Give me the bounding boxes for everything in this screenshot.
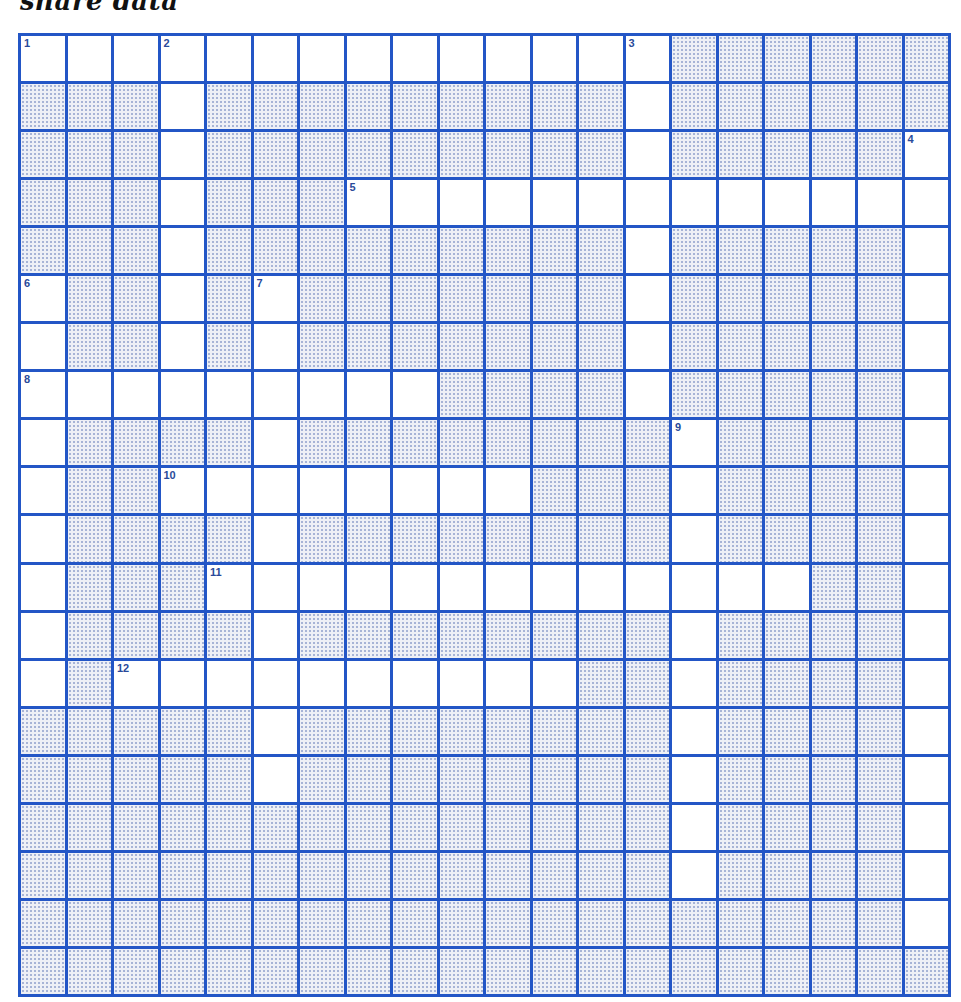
grid-cell-open[interactable] bbox=[161, 661, 205, 706]
grid-cell-open[interactable] bbox=[765, 180, 809, 225]
grid-cell-open[interactable] bbox=[579, 180, 623, 225]
grid-cell-open[interactable] bbox=[579, 565, 623, 610]
grid-cell-open[interactable] bbox=[254, 613, 298, 658]
grid-cell-open[interactable] bbox=[393, 468, 437, 513]
grid-cell-open[interactable] bbox=[626, 228, 670, 273]
grid-cell-open[interactable]: 4 bbox=[905, 132, 949, 177]
grid-cell-open[interactable] bbox=[440, 565, 484, 610]
grid-cell-open[interactable]: 2 bbox=[161, 36, 205, 81]
grid-cell-open[interactable]: 7 bbox=[254, 276, 298, 321]
grid-cell-open[interactable] bbox=[254, 565, 298, 610]
grid-cell-open[interactable] bbox=[440, 36, 484, 81]
grid-cell-open[interactable] bbox=[626, 180, 670, 225]
grid-cell-open[interactable] bbox=[21, 420, 65, 465]
grid-cell-open[interactable] bbox=[440, 180, 484, 225]
grid-cell-open[interactable] bbox=[626, 84, 670, 129]
grid-cell-open[interactable] bbox=[114, 36, 158, 81]
grid-cell-open[interactable] bbox=[300, 661, 344, 706]
grid-cell-open[interactable] bbox=[905, 372, 949, 417]
grid-cell-open[interactable] bbox=[719, 180, 763, 225]
grid-cell-open[interactable] bbox=[300, 468, 344, 513]
grid-cell-open[interactable] bbox=[207, 372, 251, 417]
grid-cell-open[interactable]: 6 bbox=[21, 276, 65, 321]
grid-cell-open[interactable] bbox=[905, 180, 949, 225]
grid-cell-open[interactable]: 10 bbox=[161, 468, 205, 513]
grid-cell-open[interactable] bbox=[161, 132, 205, 177]
grid-cell-open[interactable] bbox=[905, 565, 949, 610]
grid-cell-open[interactable] bbox=[254, 372, 298, 417]
grid-cell-open[interactable] bbox=[533, 180, 577, 225]
grid-cell-open[interactable] bbox=[393, 36, 437, 81]
grid-cell-open[interactable] bbox=[765, 565, 809, 610]
grid-cell-open[interactable] bbox=[626, 372, 670, 417]
grid-cell-open[interactable]: 9 bbox=[672, 420, 716, 465]
grid-cell-open[interactable] bbox=[905, 468, 949, 513]
grid-cell-open[interactable] bbox=[626, 276, 670, 321]
grid-cell-open[interactable] bbox=[21, 613, 65, 658]
grid-cell-open[interactable] bbox=[347, 36, 391, 81]
grid-cell-open[interactable] bbox=[533, 36, 577, 81]
grid-cell-open[interactable] bbox=[905, 613, 949, 658]
grid-cell-open[interactable] bbox=[672, 853, 716, 898]
grid-cell-open[interactable] bbox=[347, 565, 391, 610]
grid-cell-open[interactable] bbox=[254, 36, 298, 81]
grid-cell-open[interactable] bbox=[905, 516, 949, 561]
grid-cell-open[interactable] bbox=[905, 228, 949, 273]
grid-cell-open[interactable] bbox=[161, 324, 205, 369]
grid-cell-open[interactable] bbox=[21, 468, 65, 513]
grid-cell-open[interactable] bbox=[347, 372, 391, 417]
grid-cell-open[interactable] bbox=[672, 180, 716, 225]
grid-cell-open[interactable] bbox=[207, 36, 251, 81]
grid-cell-open[interactable] bbox=[254, 757, 298, 802]
grid-cell-open[interactable] bbox=[21, 516, 65, 561]
grid-cell-open[interactable] bbox=[672, 805, 716, 850]
grid-cell-open[interactable]: 3 bbox=[626, 36, 670, 81]
grid-cell-open[interactable] bbox=[254, 709, 298, 754]
grid-cell-open[interactable] bbox=[672, 709, 716, 754]
grid-cell-open[interactable] bbox=[254, 468, 298, 513]
grid-cell-open[interactable] bbox=[440, 661, 484, 706]
grid-cell-open[interactable]: 11 bbox=[207, 565, 251, 610]
grid-cell-open[interactable] bbox=[579, 36, 623, 81]
grid-cell-open[interactable] bbox=[161, 228, 205, 273]
grid-cell-open[interactable] bbox=[486, 468, 530, 513]
grid-cell-open[interactable] bbox=[161, 180, 205, 225]
grid-cell-open[interactable]: 8 bbox=[21, 372, 65, 417]
grid-cell-open[interactable] bbox=[254, 661, 298, 706]
grid-cell-open[interactable] bbox=[347, 661, 391, 706]
grid-cell-open[interactable] bbox=[486, 36, 530, 81]
grid-cell-open[interactable]: 12 bbox=[114, 661, 158, 706]
grid-cell-open[interactable] bbox=[347, 468, 391, 513]
grid-cell-open[interactable] bbox=[905, 324, 949, 369]
grid-cell-open[interactable] bbox=[207, 661, 251, 706]
grid-cell-open[interactable] bbox=[719, 565, 763, 610]
grid-cell-open[interactable] bbox=[626, 132, 670, 177]
grid-cell-open[interactable] bbox=[21, 324, 65, 369]
grid-cell-open[interactable] bbox=[905, 709, 949, 754]
grid-cell-open[interactable] bbox=[486, 565, 530, 610]
grid-cell-open[interactable] bbox=[68, 372, 112, 417]
grid-cell-open[interactable] bbox=[207, 468, 251, 513]
grid-cell-open[interactable] bbox=[114, 372, 158, 417]
grid-cell-open[interactable] bbox=[672, 613, 716, 658]
grid-cell-open[interactable] bbox=[393, 565, 437, 610]
grid-cell-open[interactable] bbox=[533, 661, 577, 706]
grid-cell-open[interactable] bbox=[672, 565, 716, 610]
grid-cell-open[interactable] bbox=[300, 36, 344, 81]
grid-cell-open[interactable] bbox=[905, 661, 949, 706]
grid-cell-open[interactable] bbox=[161, 84, 205, 129]
grid-cell-open[interactable] bbox=[486, 180, 530, 225]
grid-cell-open[interactable] bbox=[905, 805, 949, 850]
grid-cell-open[interactable] bbox=[440, 468, 484, 513]
grid-cell-open[interactable] bbox=[626, 565, 670, 610]
grid-cell-open[interactable] bbox=[905, 757, 949, 802]
grid-cell-open[interactable] bbox=[905, 276, 949, 321]
grid-cell-open[interactable] bbox=[393, 661, 437, 706]
grid-cell-open[interactable] bbox=[21, 661, 65, 706]
grid-cell-open[interactable] bbox=[68, 36, 112, 81]
grid-cell-open[interactable]: 1 bbox=[21, 36, 65, 81]
grid-cell-open[interactable] bbox=[905, 901, 949, 946]
grid-cell-open[interactable] bbox=[254, 516, 298, 561]
grid-cell-open[interactable] bbox=[161, 276, 205, 321]
grid-cell-open[interactable] bbox=[300, 372, 344, 417]
